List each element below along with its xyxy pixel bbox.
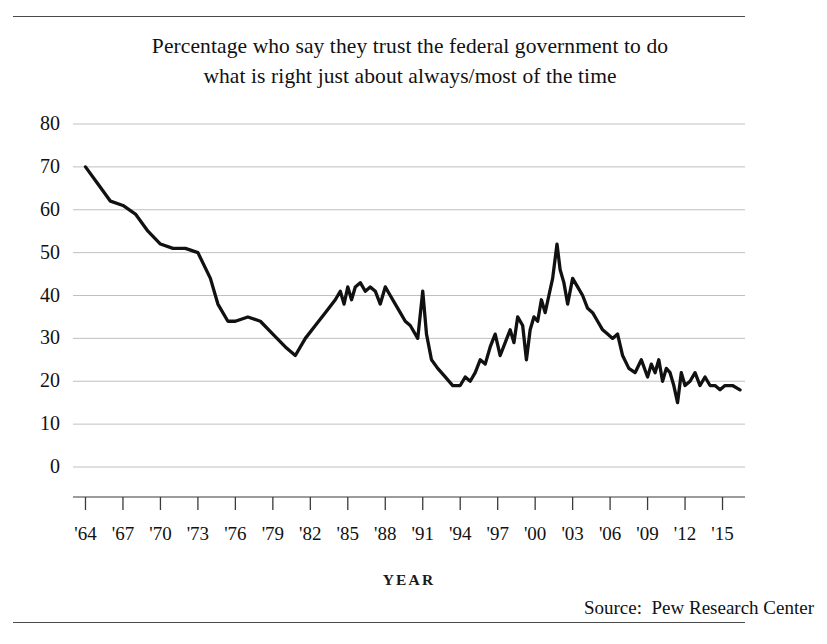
bottom-divider-rule: [13, 622, 745, 623]
y-axis-tick-label: 60: [14, 199, 60, 219]
xtick-mark-group: [85, 497, 722, 510]
y-axis-tick-label: 70: [14, 156, 60, 176]
line-chart-plot: [0, 0, 827, 644]
y-axis-tick-label: 80: [14, 113, 60, 133]
y-axis-tick-label: 50: [14, 242, 60, 262]
source-note: Source: Pew Research Center: [584, 597, 814, 619]
y-axis-tick-label: 0: [14, 456, 60, 476]
y-axis-tick-label: 30: [14, 327, 60, 347]
y-axis-tick-label: 40: [14, 285, 60, 305]
chart-page: Percentage who say they trust the federa…: [0, 0, 827, 644]
data-line-trust-series: [85, 167, 740, 403]
gridline-group: [73, 124, 745, 467]
x-axis-tick-label: '15: [701, 524, 745, 543]
y-axis-tick-label: 20: [14, 370, 60, 390]
y-axis-tick-label: 10: [14, 413, 60, 433]
x-axis-title: YEAR: [73, 571, 745, 589]
